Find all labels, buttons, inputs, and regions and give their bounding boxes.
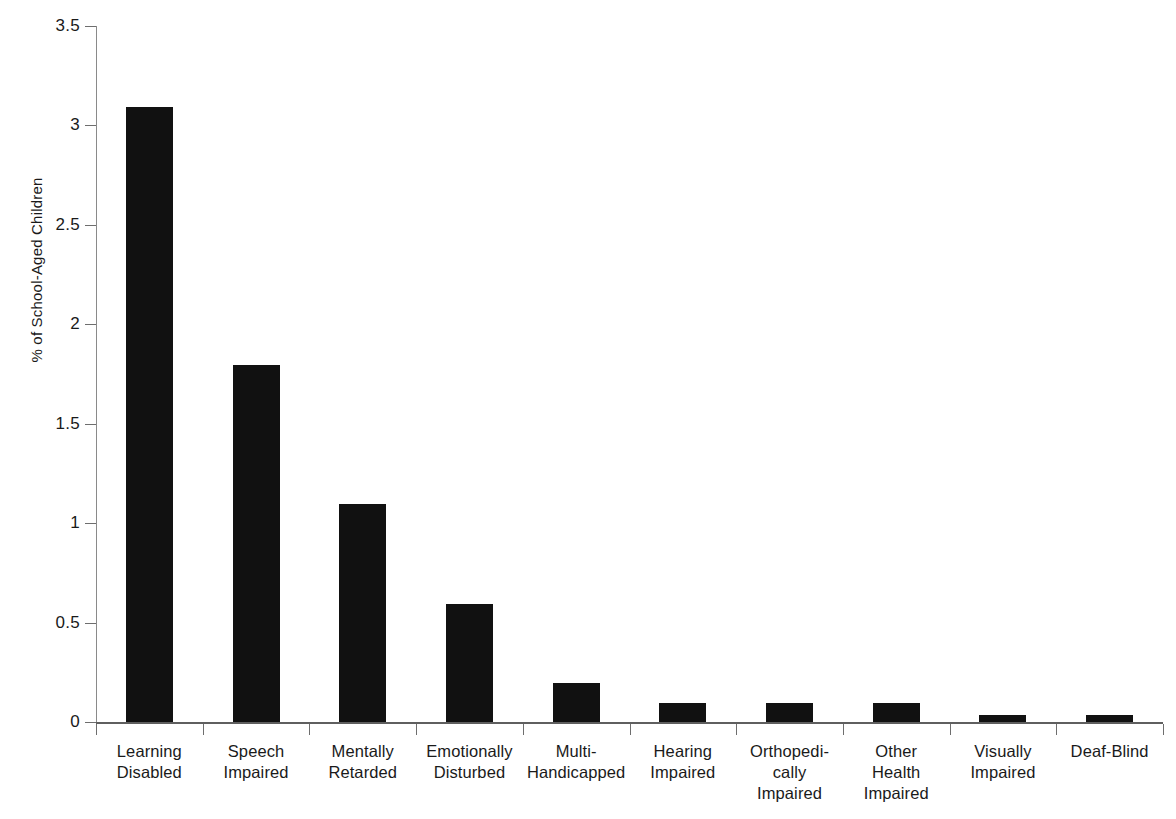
x-axis-category-label: VisuallyImpaired <box>950 741 1057 783</box>
x-axis-tick <box>309 724 310 735</box>
y-axis-tick <box>85 523 96 524</box>
x-axis-tick <box>523 724 524 735</box>
x-axis-tick <box>630 724 631 735</box>
x-axis-category-label: HearingImpaired <box>630 741 737 783</box>
y-axis-tick <box>85 225 96 226</box>
x-axis-tick <box>1056 724 1057 735</box>
x-axis-category-label: SpeechImpaired <box>203 741 310 783</box>
figure-caption-cropped <box>0 812 1176 819</box>
x-axis-category-label: EmotionallyDisturbed <box>416 741 523 783</box>
x-axis-category-label-line: Impaired <box>843 783 950 804</box>
x-axis-tick <box>96 724 97 735</box>
x-axis-category-label-line: Other <box>843 741 950 762</box>
x-axis-category-label-line: Retarded <box>309 762 416 783</box>
x-axis-category-label: Orthopedi-callyImpaired <box>736 741 843 804</box>
y-axis-tick <box>85 324 96 325</box>
x-axis-category-label-line: cally <box>736 762 843 783</box>
x-axis-tick <box>950 724 951 735</box>
y-axis-tick <box>85 623 96 624</box>
x-axis-category-label-line: Visually <box>950 741 1057 762</box>
bar <box>126 107 173 723</box>
y-axis-tick-label: 3.5 <box>6 16 80 36</box>
bar <box>766 703 813 723</box>
x-axis-category-label-line: Disturbed <box>416 762 523 783</box>
x-axis-category-label-line: Speech <box>203 741 310 762</box>
x-axis-category-label: Multi-Handicapped <box>523 741 630 783</box>
x-axis-tick <box>843 724 844 735</box>
bar <box>233 365 280 723</box>
bar-chart-figure: % of School-Aged Children 00.511.522.533… <box>0 0 1176 819</box>
y-axis-tick-label: 1.5 <box>6 414 80 434</box>
bar <box>873 703 920 723</box>
x-axis-category-label-line: Handicapped <box>523 762 630 783</box>
x-axis-category-label-line: Orthopedi- <box>736 741 843 762</box>
y-axis-tick-label: 0.5 <box>6 613 80 633</box>
x-axis-category-label: Deaf-Blind <box>1056 741 1163 762</box>
y-axis-tick-label: 3 <box>6 115 80 135</box>
y-axis-tick-label: 2.5 <box>6 215 80 235</box>
y-axis-tick-label: 1 <box>6 513 80 533</box>
bar <box>446 604 493 723</box>
y-axis-tick <box>85 26 96 27</box>
plot-area <box>96 26 1163 723</box>
y-axis-tick <box>85 125 96 126</box>
x-axis-category-label-line: Impaired <box>736 783 843 804</box>
y-axis-tick-label: 0 <box>6 712 80 732</box>
x-axis-category-label-line: Learning <box>96 741 203 762</box>
x-axis-category-label-line: Impaired <box>630 762 737 783</box>
x-axis-tick <box>203 724 204 735</box>
x-axis-category-label-line: Emotionally <box>416 741 523 762</box>
bar <box>339 504 386 723</box>
y-axis-tick-label: 2 <box>6 314 80 334</box>
x-axis-tick <box>736 724 737 735</box>
x-axis-category-label: MentallyRetarded <box>309 741 416 783</box>
x-axis-category-label-line: Deaf-Blind <box>1056 741 1163 762</box>
y-axis-tick <box>85 722 96 723</box>
bar <box>553 683 600 723</box>
x-axis-category-label-line: Disabled <box>96 762 203 783</box>
x-axis-category-label: LearningDisabled <box>96 741 203 783</box>
x-axis-category-label-line: Mentally <box>309 741 416 762</box>
x-axis-category-label-line: Impaired <box>203 762 310 783</box>
x-axis-category-label-line: Multi- <box>523 741 630 762</box>
x-axis-category-label-line: Hearing <box>630 741 737 762</box>
x-axis-category-label-line: Impaired <box>950 762 1057 783</box>
x-axis-tick <box>1163 724 1164 735</box>
x-axis-tick <box>416 724 417 735</box>
y-axis-tick <box>85 424 96 425</box>
x-axis-category-label-line: Health <box>843 762 950 783</box>
bar <box>659 703 706 723</box>
x-axis-category-label: OtherHealthImpaired <box>843 741 950 804</box>
